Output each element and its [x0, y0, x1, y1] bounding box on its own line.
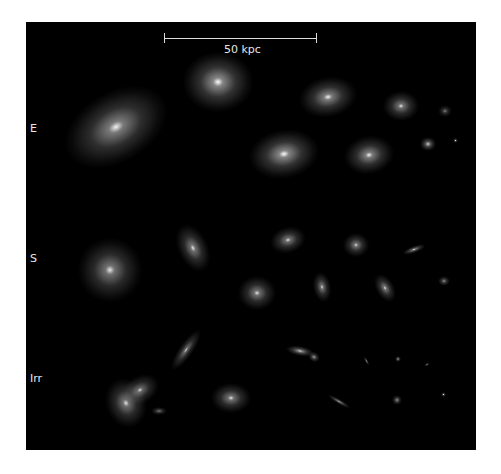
- row-label-spiral: S: [30, 252, 37, 265]
- elliptical-galaxy: [383, 91, 419, 121]
- elliptical-galaxy: [341, 132, 397, 178]
- irregular-galaxy: [362, 356, 370, 366]
- spiral-galaxy: [238, 276, 276, 310]
- spiral-galaxy: [402, 242, 427, 257]
- irregular-galaxy: [441, 392, 446, 397]
- elliptical-galaxy: [183, 52, 253, 112]
- spiral-galaxy: [438, 276, 450, 286]
- row-label-irregular: Irr: [30, 372, 42, 385]
- irregular-galaxy: [392, 395, 402, 405]
- irregular-galaxy: [151, 407, 167, 415]
- scale-bar-left-tick: [164, 33, 165, 43]
- irregular-galaxy: [326, 392, 351, 409]
- irregular-galaxy: [167, 326, 206, 373]
- irregular-galaxy: [211, 383, 251, 413]
- irregular-galaxy: [424, 361, 431, 367]
- spiral-galaxy: [343, 233, 369, 257]
- elliptical-galaxy: [51, 69, 181, 185]
- elliptical-galaxy: [453, 138, 458, 143]
- elliptical-galaxy: [420, 137, 436, 151]
- spiral-galaxy: [267, 223, 309, 257]
- elliptical-galaxy: [245, 124, 322, 183]
- scale-bar: [164, 38, 316, 39]
- spiral-galaxy: [311, 271, 334, 304]
- irregular-galaxy: [395, 356, 401, 362]
- elliptical-galaxy: [296, 72, 360, 121]
- spiral-galaxy: [78, 238, 142, 302]
- spiral-galaxy: [169, 219, 217, 277]
- elliptical-galaxy: [438, 105, 452, 117]
- scale-bar-right-tick: [316, 33, 317, 43]
- galaxy-figure-panel: 50 kpc E S Irr: [26, 22, 476, 450]
- spiral-galaxy: [370, 271, 401, 306]
- row-label-elliptical: E: [30, 122, 37, 135]
- irregular-galaxy: [306, 350, 321, 365]
